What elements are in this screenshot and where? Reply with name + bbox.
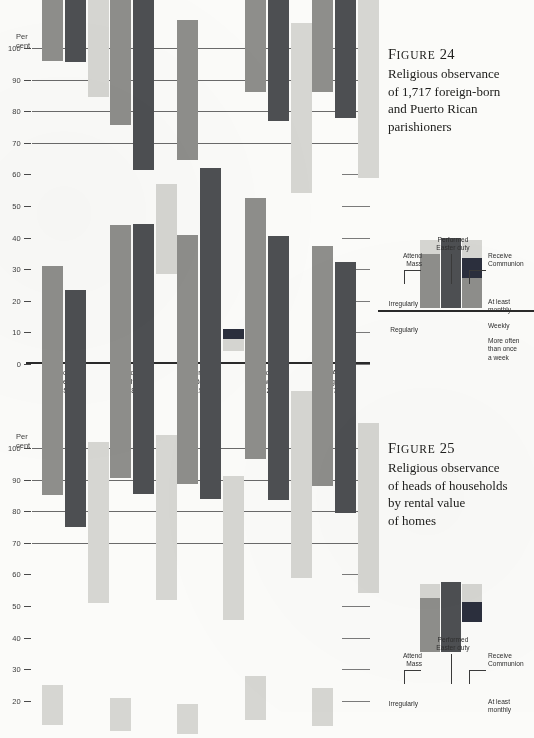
legend-caption-at-least-monthly-line-1: monthly <box>488 306 534 314</box>
legend-caption-easter-duty-line-0: Performed <box>418 636 488 644</box>
figure-24-title-line-1: of 1,717 foreign-born <box>388 83 534 101</box>
legend-segment-weekly <box>462 602 482 622</box>
legend-25: AttendMassPerformedEaster dutyReceiveCom… <box>378 638 534 712</box>
legend-caption-easter-duty-line-0: Performed <box>418 236 488 244</box>
y-tick-20 <box>24 701 31 702</box>
bar-attend-mass-5 <box>312 486 333 738</box>
y-tick-40 <box>24 238 31 239</box>
leader-attend-mass <box>404 670 405 684</box>
bar-performed-easter-duty-2 <box>133 494 154 738</box>
y-tick-90 <box>24 480 31 481</box>
bar-receive-communion-5 <box>358 593 379 738</box>
y-tick-label-90: 90 <box>12 475 21 484</box>
segment-performed-easter-duty <box>268 0 289 121</box>
segment-irregularly <box>110 698 131 731</box>
legend-caption-at-least-monthly: At leastmonthly <box>488 298 534 315</box>
legend-caption-weekly-line-0: Weekly <box>488 322 534 330</box>
legend-caption-at-least-monthly: At leastmonthly <box>488 698 534 715</box>
segment-regularly <box>245 198 266 459</box>
bar-performed-easter-duty-5 <box>335 513 356 738</box>
figure-25-title-line-1: of heads of households <box>388 477 534 495</box>
legend-caption-attend-mass: AttendMass <box>378 652 422 669</box>
figure-24-title-line-0: Religious observance <box>388 65 534 83</box>
y-tick-label-50: 50 <box>12 602 21 611</box>
segment-regularly <box>312 0 333 92</box>
legend-caption-easter-duty-line-1: Easter duty <box>418 644 488 652</box>
y-tick-90 <box>24 80 31 81</box>
legend-caption-at-least-monthly-line-1: monthly <box>488 706 534 714</box>
legend-caption-more-often-line-2: a week <box>488 354 534 362</box>
y-tick-30 <box>24 269 31 270</box>
y-tick-label-10: 10 <box>12 328 21 337</box>
figure-25-title-line-2: by rental value <box>388 494 534 512</box>
y-tick-60 <box>24 174 31 175</box>
segment-performed-easter-duty <box>65 0 86 62</box>
segment-at-least-monthly <box>358 423 379 594</box>
y-tick-label-60: 60 <box>12 170 21 179</box>
figure-25-number: FIGURE 25 <box>388 440 534 457</box>
legend-caption-irregularly-line-0: Irregularly <box>376 700 418 708</box>
leader-receive-h <box>469 270 486 271</box>
legend-segment-at-least-monthly <box>462 584 482 602</box>
y-tick-label-40: 40 <box>12 233 21 242</box>
y-tick-label-20: 20 <box>12 696 21 705</box>
leader-attend-mass <box>404 270 405 284</box>
y-tick-label-30: 30 <box>12 265 21 274</box>
figure-25-title-line-0: Religious observance <box>388 459 534 477</box>
legend-caption-attend-mass-line-1: Mass <box>378 660 422 668</box>
segment-performed-easter-duty <box>268 236 289 500</box>
y-tick-50 <box>24 206 31 207</box>
segment-irregularly <box>42 685 63 725</box>
y-tick-label-50: 50 <box>12 202 21 211</box>
y-tick-40 <box>24 638 31 639</box>
legend-caption-easter-duty-line-1: Easter duty <box>418 244 488 252</box>
figure-24-title-line-3: parishioners <box>388 118 534 136</box>
segment-regularly <box>312 246 333 486</box>
legend-caption-attend-mass-line-1: Mass <box>378 260 422 268</box>
y-tick-label-90: 90 <box>12 75 21 84</box>
y-tick-80 <box>24 111 31 112</box>
plot-area-25: 2030405060708090100 <box>32 448 370 738</box>
segment-regularly <box>110 225 131 478</box>
y-tick-label-20: 20 <box>12 296 21 305</box>
segment-irregularly <box>312 688 333 726</box>
y-tick-10 <box>24 332 31 333</box>
legend-caption-at-least-monthly-line-0: At least <box>488 298 534 306</box>
legend-caption-easter-duty: PerformedEaster duty <box>418 636 488 653</box>
y-tick-label-100: 100 <box>8 44 21 53</box>
segment-performed-easter-duty <box>65 290 86 527</box>
bar-performed-easter-duty-3 <box>200 499 221 738</box>
legend-segment-more-often <box>462 278 482 308</box>
legend-caption-at-least-monthly-line-0: At least <box>488 698 534 706</box>
figure-24-title-line-2: and Puerto Rican <box>388 100 534 118</box>
legend-caption-more-often-line-0: More often <box>488 337 534 345</box>
y-tick-80 <box>24 511 31 512</box>
y-tick-label-80: 80 <box>12 507 21 516</box>
legend-caption-receive-communion-line-1: Communion <box>488 260 534 268</box>
segment-regularly <box>42 0 63 61</box>
legend-segment-irregularly <box>420 584 440 598</box>
y-tick-label-30: 30 <box>12 665 21 674</box>
bar-group-2 <box>100 448 168 738</box>
bar-group-3 <box>167 448 235 738</box>
legend-caption-easter-duty: PerformedEaster duty <box>418 236 488 253</box>
y-tick-label-100: 100 <box>8 444 21 453</box>
figure-25-title: FIGURE 25 Religious observance of heads … <box>388 440 534 529</box>
bar-attend-mass-1 <box>42 495 63 738</box>
leader-attend-mass-h <box>404 670 421 671</box>
legend-caption-irregularly: Irregularly <box>376 300 418 308</box>
legend-caption-receive-communion-line-0: Receive <box>488 652 534 660</box>
y-tick-100 <box>24 448 31 449</box>
leader-easter <box>451 654 452 684</box>
y-tick-label-80: 80 <box>12 107 21 116</box>
legend-caption-more-often: More oftenthan oncea week <box>488 337 534 362</box>
y-tick-label-70: 70 <box>12 138 21 147</box>
y-tick-70 <box>24 143 31 144</box>
legend-caption-receive-communion: ReceiveCommunion <box>488 652 534 669</box>
leader-receive-h <box>469 670 486 671</box>
segment-performed-easter-duty <box>133 224 154 494</box>
bar-attend-mass-4 <box>245 459 266 738</box>
segment-regularly <box>177 235 198 485</box>
bar-group-1 <box>32 448 100 738</box>
